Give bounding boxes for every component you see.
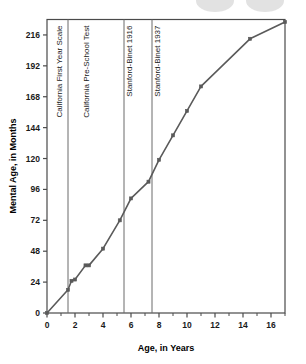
data-point-4 — [84, 264, 87, 267]
data-point-12 — [185, 109, 188, 112]
region-label-0: California First Year Scale — [55, 25, 64, 118]
data-point-2 — [70, 279, 73, 282]
region-label-3: Stanford-Binet 1937 — [153, 25, 162, 97]
x-tick-label-4: 4 — [101, 320, 106, 330]
data-point-11 — [171, 134, 174, 137]
y-tick-label-0: 0 — [35, 308, 40, 318]
x-tick-label-6: 6 — [129, 320, 134, 330]
region-divider-lines — [68, 20, 152, 314]
y-axis-title: Mental Age, in Months — [8, 118, 18, 213]
x-tick-label-0: 0 — [45, 320, 50, 330]
y-tick-label-72: 72 — [31, 215, 41, 225]
y-tick-label-96: 96 — [31, 184, 41, 194]
data-point-10 — [157, 158, 160, 161]
data-point-3 — [73, 278, 76, 281]
y-tick-label-192: 192 — [26, 61, 40, 71]
y-tick-label-216: 216 — [26, 30, 40, 40]
data-point-13 — [199, 85, 202, 88]
x-tick-label-8: 8 — [157, 320, 162, 330]
data-point-0 — [45, 311, 48, 314]
data-point-15 — [283, 21, 286, 24]
data-point-5 — [87, 264, 90, 267]
x-tick-label-10: 10 — [182, 320, 192, 330]
data-point-7 — [118, 219, 121, 222]
chart-container: 024487296120144168192216 0246810121416 C… — [0, 0, 306, 364]
region-labels: California First Year ScaleCalifornia Pr… — [55, 25, 162, 118]
region-label-2: Stanford-Binet 1916 — [125, 25, 134, 97]
y-tick-label-120: 120 — [26, 154, 40, 164]
x-tick-label-16: 16 — [266, 320, 276, 330]
x-axis-ticks — [47, 313, 285, 318]
y-tick-label-168: 168 — [26, 92, 40, 102]
x-axis-title: Age, in Years — [138, 343, 194, 353]
region-label-1: California Pre-School Test — [82, 25, 91, 118]
x-tick-label-12: 12 — [210, 320, 220, 330]
data-point-1 — [66, 288, 69, 291]
y-tick-label-144: 144 — [26, 123, 40, 133]
y-axis-tick-labels: 024487296120144168192216 — [26, 30, 40, 318]
x-tick-label-2: 2 — [73, 320, 78, 330]
data-point-14 — [248, 37, 251, 40]
y-tick-label-24: 24 — [31, 277, 41, 287]
data-point-8 — [129, 197, 132, 200]
data-point-6 — [101, 247, 104, 250]
x-tick-label-14: 14 — [238, 320, 248, 330]
data-point-9 — [147, 180, 150, 183]
y-tick-label-48: 48 — [31, 246, 41, 256]
mental-age-line-chart: 024487296120144168192216 0246810121416 C… — [0, 0, 306, 364]
x-axis-tick-labels: 0246810121416 — [45, 320, 276, 330]
